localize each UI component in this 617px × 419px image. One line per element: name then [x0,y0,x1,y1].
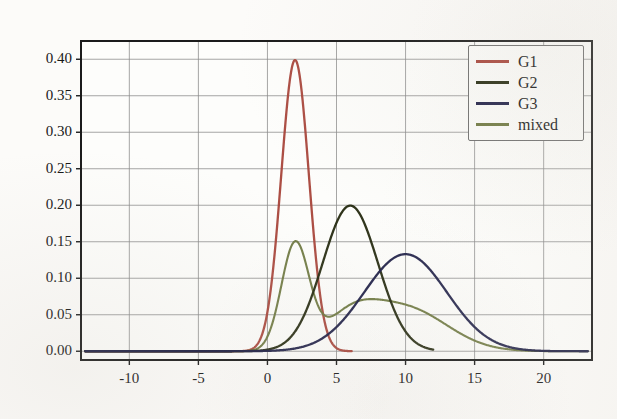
ytick-label-1: 0.05 [46,306,72,323]
xtick-label-2: 0 [237,370,297,387]
legend-swatch-g3 [476,102,509,105]
ytick-label-2: 0.10 [46,269,72,286]
ytick-label-5: 0.25 [46,160,72,177]
xtick-label-1: -5 [168,370,228,387]
legend-item-mixed[interactable]: mixed [476,114,574,135]
xtick-label-5: 15 [445,370,505,387]
legend-label-g1: G1 [518,54,538,70]
legend-item-g2[interactable]: G2 [476,72,574,93]
ytick-label-0: 0.00 [46,342,72,359]
legend-swatch-mixed [476,123,509,126]
ytick-label-4: 0.20 [46,196,72,213]
gaussian-distributions-chart: 0.000.050.100.150.200.250.300.350.40-10-… [0,0,617,419]
legend-item-g1[interactable]: G1 [476,51,574,72]
ytick-label-8: 0.40 [46,50,72,67]
xtick-label-6: 20 [514,370,574,387]
legend-item-g3[interactable]: G3 [476,93,574,114]
xtick-label-0: -10 [99,370,159,387]
chart-legend: G1G2G3mixed [468,45,584,141]
xtick-label-3: 5 [307,370,367,387]
ytick-label-3: 0.15 [46,233,72,250]
ytick-label-7: 0.35 [46,87,72,104]
legend-swatch-g1 [476,60,509,63]
legend-label-mixed: mixed [518,117,558,133]
xtick-label-4: 10 [376,370,436,387]
ytick-label-6: 0.30 [46,123,72,140]
legend-label-g3: G3 [518,96,538,112]
legend-label-g2: G2 [518,75,538,91]
legend-swatch-g2 [476,81,509,84]
